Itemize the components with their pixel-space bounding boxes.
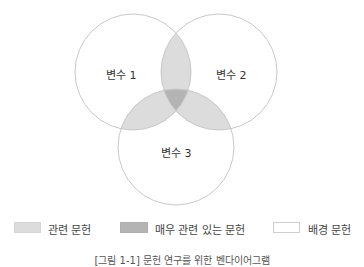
figure-caption: [그림 1-1] 문헌 연구를 위한 벤다이어그램: [0, 252, 364, 267]
legend-label-background: 배경 문헌: [308, 221, 352, 237]
legend-swatch-related: [14, 222, 41, 233]
legend-label-highly-related: 매우 관련 있는 문헌: [155, 221, 246, 237]
legend: 관련 문헌 매우 관련 있는 문헌 배경 문헌: [0, 221, 364, 235]
label-variable-3: 변수 3: [161, 144, 192, 160]
legend-swatch-background: [273, 222, 300, 233]
label-variable-2: 변수 2: [216, 66, 247, 82]
legend-label-related: 관련 문헌: [48, 221, 92, 237]
label-variable-1: 변수 1: [106, 66, 137, 82]
legend-swatch-highly-related: [120, 222, 148, 233]
venn-diagram: [0, 0, 364, 220]
